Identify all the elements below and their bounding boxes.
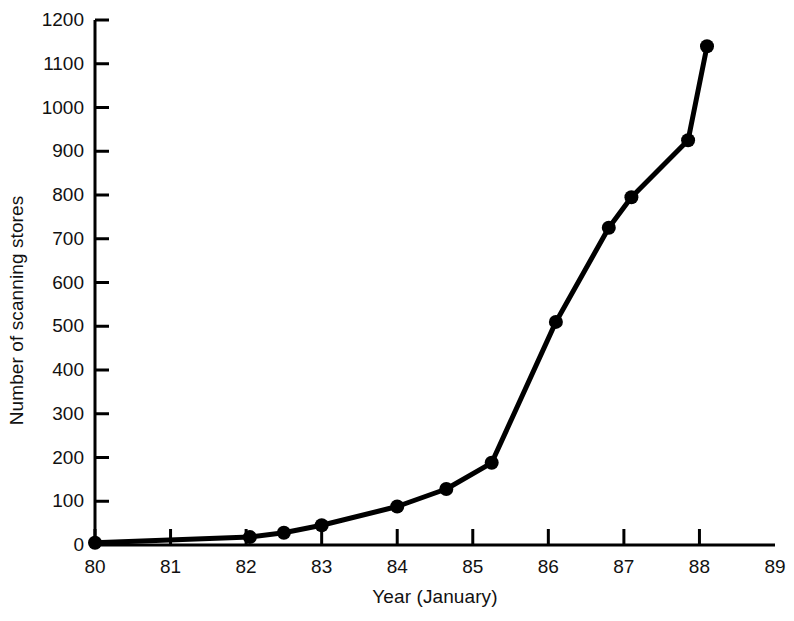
x-tick-label: 89 — [752, 557, 794, 576]
data-point-marker — [88, 536, 102, 550]
data-point-marker — [277, 526, 291, 540]
data-series-markers — [88, 39, 714, 550]
x-tick-label: 88 — [676, 557, 722, 576]
x-tick-label: 82 — [223, 557, 269, 576]
data-point-marker — [390, 500, 404, 514]
data-point-marker — [549, 315, 563, 329]
data-point-marker — [439, 482, 453, 496]
y-tick-label: 1100 — [22, 54, 84, 73]
y-tick-label: 400 — [22, 360, 84, 379]
y-tick-label: 1200 — [22, 10, 84, 29]
data-point-marker — [681, 133, 695, 147]
x-tick-label: 86 — [525, 557, 571, 576]
y-tick-label: 1000 — [22, 98, 84, 117]
x-tick-label: 80 — [72, 557, 118, 576]
y-tick-label: 600 — [22, 273, 84, 292]
plot-area — [0, 0, 794, 621]
data-point-marker — [624, 190, 638, 204]
y-tick-label: 800 — [22, 185, 84, 204]
data-point-marker — [602, 221, 616, 235]
data-point-marker — [485, 456, 499, 470]
y-tick-label: 200 — [22, 448, 84, 467]
data-point-marker — [315, 518, 329, 532]
x-tick-label: 81 — [148, 557, 194, 576]
line-chart-figure: Number of scanning stores Year (January)… — [0, 0, 794, 621]
y-tick-label: 300 — [22, 404, 84, 423]
y-tick-label: 100 — [22, 491, 84, 510]
data-point-marker — [243, 530, 257, 544]
y-tick-label: 500 — [22, 316, 84, 335]
data-point-marker — [700, 39, 714, 53]
axes — [95, 20, 775, 545]
x-tick-label: 84 — [374, 557, 420, 576]
x-tick-label: 87 — [601, 557, 647, 576]
y-tick-label: 0 — [22, 535, 84, 554]
y-tick-label: 900 — [22, 141, 84, 160]
x-axis-title: Year (January) — [95, 586, 775, 608]
data-series-line — [95, 46, 707, 543]
y-tick-label: 700 — [22, 229, 84, 248]
y-axis-ticks — [95, 20, 109, 501]
x-tick-label: 85 — [450, 557, 496, 576]
x-tick-label: 83 — [299, 557, 345, 576]
